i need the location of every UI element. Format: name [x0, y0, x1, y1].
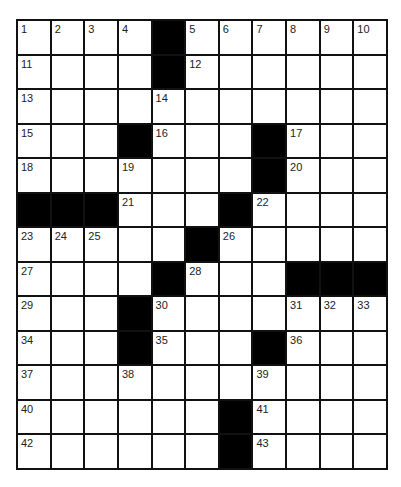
letter-cell[interactable]: 19: [119, 159, 151, 192]
letter-cell[interactable]: 37: [18, 366, 50, 399]
letter-cell[interactable]: 43: [253, 435, 285, 468]
letter-cell[interactable]: [119, 401, 151, 434]
letter-cell[interactable]: [186, 90, 218, 123]
letter-cell[interactable]: [321, 194, 353, 227]
letter-cell[interactable]: [220, 366, 252, 399]
letter-cell[interactable]: [119, 228, 151, 261]
letter-cell[interactable]: [153, 435, 185, 468]
letter-cell[interactable]: 32: [321, 297, 353, 330]
letter-cell[interactable]: 11: [18, 56, 50, 89]
letter-cell[interactable]: [52, 56, 84, 89]
letter-cell[interactable]: [85, 332, 117, 365]
letter-cell[interactable]: [287, 56, 319, 89]
letter-cell[interactable]: [52, 159, 84, 192]
letter-cell[interactable]: 6: [220, 21, 252, 54]
letter-cell[interactable]: 15: [18, 125, 50, 158]
letter-cell[interactable]: [354, 435, 386, 468]
letter-cell[interactable]: [119, 435, 151, 468]
letter-cell[interactable]: [85, 56, 117, 89]
letter-cell[interactable]: [186, 159, 218, 192]
letter-cell[interactable]: [52, 435, 84, 468]
letter-cell[interactable]: [253, 263, 285, 296]
letter-cell[interactable]: [52, 401, 84, 434]
letter-cell[interactable]: 21: [119, 194, 151, 227]
letter-cell[interactable]: 16: [153, 125, 185, 158]
letter-cell[interactable]: [220, 125, 252, 158]
letter-cell[interactable]: [321, 125, 353, 158]
letter-cell[interactable]: [287, 435, 319, 468]
letter-cell[interactable]: [52, 125, 84, 158]
letter-cell[interactable]: [287, 90, 319, 123]
letter-cell[interactable]: [354, 56, 386, 89]
letter-cell[interactable]: [321, 435, 353, 468]
letter-cell[interactable]: 28: [186, 263, 218, 296]
letter-cell[interactable]: 20: [287, 159, 319, 192]
letter-cell[interactable]: [354, 159, 386, 192]
letter-cell[interactable]: 40: [18, 401, 50, 434]
letter-cell[interactable]: [52, 263, 84, 296]
letter-cell[interactable]: 13: [18, 90, 50, 123]
letter-cell[interactable]: 42: [18, 435, 50, 468]
letter-cell[interactable]: 5: [186, 21, 218, 54]
letter-cell[interactable]: [153, 194, 185, 227]
letter-cell[interactable]: [220, 90, 252, 123]
letter-cell[interactable]: [186, 194, 218, 227]
letter-cell[interactable]: 10: [354, 21, 386, 54]
letter-cell[interactable]: [153, 159, 185, 192]
letter-cell[interactable]: [52, 366, 84, 399]
letter-cell[interactable]: [253, 90, 285, 123]
letter-cell[interactable]: 14: [153, 90, 185, 123]
letter-cell[interactable]: [119, 263, 151, 296]
letter-cell[interactable]: 39: [253, 366, 285, 399]
letter-cell[interactable]: [85, 159, 117, 192]
letter-cell[interactable]: 23: [18, 228, 50, 261]
letter-cell[interactable]: [85, 297, 117, 330]
letter-cell[interactable]: [354, 228, 386, 261]
letter-cell[interactable]: 9: [321, 21, 353, 54]
letter-cell[interactable]: 34: [18, 332, 50, 365]
letter-cell[interactable]: [85, 125, 117, 158]
letter-cell[interactable]: [85, 263, 117, 296]
letter-cell[interactable]: 12: [186, 56, 218, 89]
letter-cell[interactable]: 38: [119, 366, 151, 399]
letter-cell[interactable]: [85, 90, 117, 123]
letter-cell[interactable]: [354, 194, 386, 227]
letter-cell[interactable]: [52, 90, 84, 123]
letter-cell[interactable]: [153, 228, 185, 261]
letter-cell[interactable]: 1: [18, 21, 50, 54]
letter-cell[interactable]: 25: [85, 228, 117, 261]
letter-cell[interactable]: [354, 332, 386, 365]
letter-cell[interactable]: 17: [287, 125, 319, 158]
letter-cell[interactable]: 4: [119, 21, 151, 54]
letter-cell[interactable]: [85, 401, 117, 434]
letter-cell[interactable]: 26: [220, 228, 252, 261]
letter-cell[interactable]: 27: [18, 263, 50, 296]
letter-cell[interactable]: [85, 435, 117, 468]
letter-cell[interactable]: [287, 401, 319, 434]
letter-cell[interactable]: [52, 297, 84, 330]
letter-cell[interactable]: [354, 366, 386, 399]
letter-cell[interactable]: 29: [18, 297, 50, 330]
letter-cell[interactable]: [321, 332, 353, 365]
letter-cell[interactable]: [287, 228, 319, 261]
letter-cell[interactable]: [220, 263, 252, 296]
letter-cell[interactable]: [287, 194, 319, 227]
letter-cell[interactable]: [220, 297, 252, 330]
letter-cell[interactable]: [253, 228, 285, 261]
letter-cell[interactable]: [321, 90, 353, 123]
letter-cell[interactable]: [354, 401, 386, 434]
letter-cell[interactable]: [354, 125, 386, 158]
letter-cell[interactable]: [85, 366, 117, 399]
letter-cell[interactable]: 3: [85, 21, 117, 54]
letter-cell[interactable]: 31: [287, 297, 319, 330]
letter-cell[interactable]: [153, 401, 185, 434]
letter-cell[interactable]: [321, 56, 353, 89]
letter-cell[interactable]: 41: [253, 401, 285, 434]
letter-cell[interactable]: [321, 401, 353, 434]
letter-cell[interactable]: [321, 366, 353, 399]
letter-cell[interactable]: [253, 56, 285, 89]
letter-cell[interactable]: [52, 332, 84, 365]
letter-cell[interactable]: [321, 159, 353, 192]
letter-cell[interactable]: [220, 159, 252, 192]
letter-cell[interactable]: [119, 90, 151, 123]
